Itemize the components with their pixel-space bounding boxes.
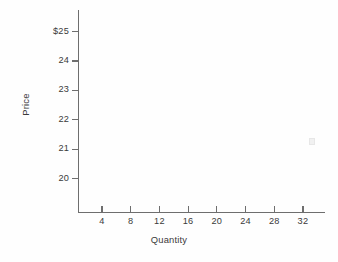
y-tick-label: 24 <box>35 55 69 65</box>
x-tick-mark <box>159 206 160 213</box>
x-tick-label: 24 <box>231 216 261 226</box>
x-tick-label: 16 <box>173 216 203 226</box>
x-axis-line <box>78 212 325 213</box>
x-tick-label: 20 <box>202 216 232 226</box>
y-tick-mark <box>72 119 79 120</box>
y-tick-label: 22 <box>35 114 69 124</box>
x-tick-mark <box>101 206 102 213</box>
x-tick-label: 8 <box>116 216 146 226</box>
y-tick-label: 21 <box>35 143 69 153</box>
scan-artifact <box>309 138 315 145</box>
y-axis-line <box>78 10 79 213</box>
x-tick-label: 32 <box>288 216 318 226</box>
y-tick-label: $25 <box>35 26 69 36</box>
x-tick-mark <box>302 206 303 213</box>
x-axis-title: Quantity <box>0 234 338 245</box>
x-tick-label: 12 <box>144 216 174 226</box>
x-tick-label: 28 <box>259 216 289 226</box>
x-tick-mark <box>216 206 217 213</box>
y-tick-mark <box>72 149 79 150</box>
x-tick-mark <box>274 206 275 213</box>
y-tick-mark <box>72 31 79 32</box>
y-tick-label: 20 <box>35 173 69 183</box>
x-tick-label: 4 <box>87 216 117 226</box>
chart-screenshot: $25 24 23 22 21 20 4 8 12 16 20 24 28 32… <box>0 0 338 262</box>
y-axis-title: Price <box>20 73 31 137</box>
x-tick-mark <box>188 206 189 213</box>
y-tick-mark <box>72 60 79 61</box>
plot-area <box>79 10 325 211</box>
y-tick-label: 23 <box>35 84 69 94</box>
y-tick-mark <box>72 178 79 179</box>
y-tick-mark <box>72 90 79 91</box>
x-tick-mark <box>245 206 246 213</box>
x-tick-mark <box>130 206 131 213</box>
